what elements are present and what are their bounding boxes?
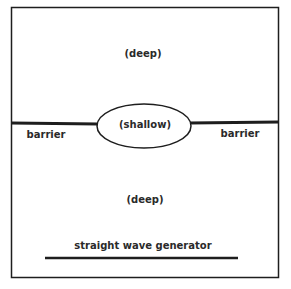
wave-generator-label: straight wave generator <box>74 240 211 251</box>
barrier-right-line <box>190 122 279 123</box>
barrier-right-label: barrier <box>221 128 260 139</box>
barrier-left-label: barrier <box>27 129 66 140</box>
shallow-label: (shallow) <box>119 119 171 130</box>
deep-top-label: (deep) <box>124 48 161 59</box>
deep-bottom-label: (deep) <box>126 194 163 205</box>
barrier-left-line <box>11 123 98 124</box>
